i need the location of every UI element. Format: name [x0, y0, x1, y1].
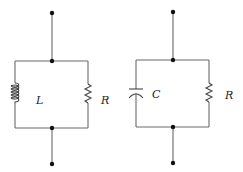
bottom-terminal-node — [50, 162, 54, 166]
resistor-icon — [206, 83, 212, 102]
bottom-junction-node — [50, 126, 54, 130]
top-terminal-node — [171, 10, 175, 14]
resistor-icon — [85, 84, 91, 103]
resistor-label: R — [224, 89, 233, 102]
bottom-terminal-node — [171, 161, 175, 165]
top-junction-node — [171, 58, 175, 62]
top-terminal-node — [50, 11, 54, 15]
circuit-diagram: L R C R — [0, 0, 243, 172]
capacitor-label: C — [152, 88, 161, 101]
bottom-junction-node — [171, 125, 175, 129]
inductor-icon — [11, 83, 19, 103]
resistor-label: R — [100, 94, 109, 107]
inductor-label: L — [35, 94, 43, 107]
cr-parallel-circuit: C R — [129, 10, 233, 165]
top-junction-node — [50, 59, 54, 63]
lr-parallel-circuit: L R — [11, 11, 109, 166]
